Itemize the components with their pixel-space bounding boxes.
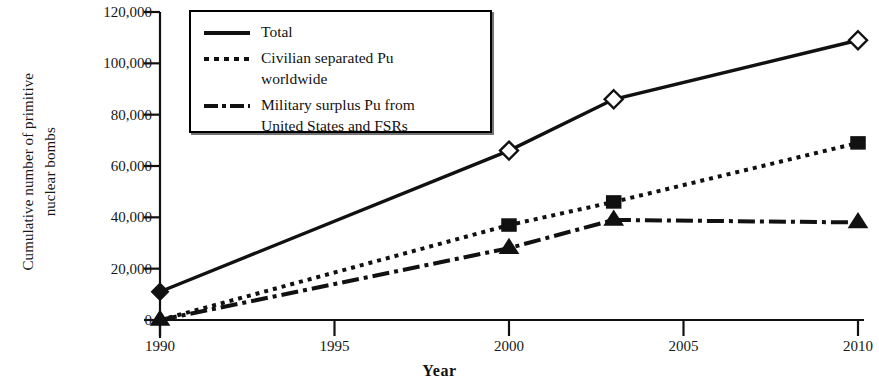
data-point-marker: [607, 196, 621, 208]
legend-label-total: Total: [261, 22, 293, 43]
data-point-marker: [605, 90, 623, 108]
data-point-marker: [849, 31, 867, 49]
legend-item-civilian: Civilian separated Pu worldwide: [203, 48, 394, 90]
legend-label-military: Military surplus Pu from United States a…: [261, 95, 415, 137]
y-tick-label: 100,000: [57, 55, 152, 72]
legend-item-total: Total: [203, 22, 293, 43]
data-point-marker: [849, 213, 867, 227]
data-point-marker: [500, 142, 518, 160]
legend-swatch-dash-dot-line: [203, 98, 251, 114]
x-tick-label: 2010: [823, 338, 879, 355]
y-tick-label: 0: [57, 312, 152, 329]
y-tick-label: 40,000: [57, 209, 152, 226]
data-point-marker: [500, 239, 518, 253]
y-tick-label: 80,000: [57, 106, 152, 123]
series-line-2: [160, 220, 858, 320]
chart-legend: Total Civilian separated Pu worldwide Mi…: [189, 10, 492, 133]
data-point-marker: [851, 137, 865, 149]
legend-item-military: Military surplus Pu from United States a…: [203, 95, 415, 137]
x-axis-label: Year: [0, 362, 879, 380]
data-point-marker: [502, 219, 516, 231]
data-point-marker: [152, 284, 168, 300]
y-tick-label: 60,000: [57, 158, 152, 175]
legend-label-civilian: Civilian separated Pu worldwide: [261, 48, 394, 90]
x-tick-label: 2000: [474, 338, 544, 355]
y-axis-tick-labels: 020,00040,00060,00080,000100,000120,000: [0, 0, 152, 386]
chart-figure: Cumulative number of primitive nuclear b…: [0, 0, 879, 386]
x-tick-label: 2005: [649, 338, 719, 355]
legend-swatch-solid-line: [203, 25, 251, 41]
legend-swatch-dotted-line: [203, 51, 251, 67]
y-tick-label: 120,000: [57, 4, 152, 21]
y-tick-label: 20,000: [57, 260, 152, 277]
data-point-marker: [605, 211, 623, 225]
x-tick-label: 1995: [300, 338, 370, 355]
x-tick-label: 1990: [125, 338, 195, 355]
